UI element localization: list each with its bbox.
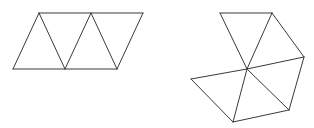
triangle-edge bbox=[91, 13, 117, 69]
diagram-canvas bbox=[0, 0, 314, 128]
triangle-edge bbox=[233, 110, 289, 122]
triangle-edge bbox=[247, 69, 289, 110]
triangle-edge bbox=[191, 69, 247, 79]
triangle-edge bbox=[13, 13, 39, 69]
triangle-edge bbox=[117, 13, 143, 69]
triangle-edge bbox=[233, 69, 247, 122]
strip-of-four-triangles bbox=[13, 13, 143, 69]
triangle-edge bbox=[247, 13, 272, 69]
triangle-edge bbox=[65, 13, 91, 69]
triangle-edge bbox=[39, 13, 65, 69]
triangle-edge bbox=[191, 79, 233, 122]
triangle-edge bbox=[220, 13, 247, 69]
triangle-edge bbox=[247, 57, 304, 69]
triangle-edge bbox=[272, 13, 304, 57]
fan-of-five-triangles bbox=[191, 13, 304, 122]
triangle-edge bbox=[289, 57, 304, 110]
